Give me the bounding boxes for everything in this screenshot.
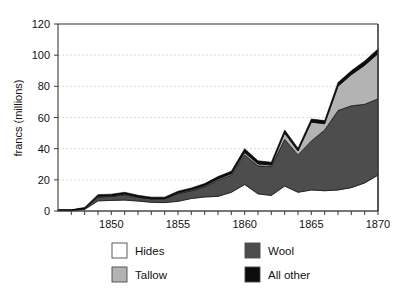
y-tick-label-60: 60 (38, 112, 50, 124)
legend-swatch-tallow (112, 267, 127, 282)
y-axis-title: francs (millions) (12, 79, 24, 156)
x-tick-label-1870: 1870 (366, 218, 390, 230)
legend-swatch-hides (112, 243, 127, 258)
x-tick-label-1860: 1860 (232, 218, 256, 230)
legend-label-tallow: Tallow (135, 269, 168, 281)
chart-svg: 020406080100120 18501855186018651870 fra… (0, 0, 403, 295)
y-tick-label-80: 80 (38, 80, 50, 92)
y-tick-label-20: 20 (38, 174, 50, 186)
y-tick-label-40: 40 (38, 143, 50, 155)
x-tick-label-1865: 1865 (299, 218, 323, 230)
stacked-area-chart: 020406080100120 18501855186018651870 fra… (0, 0, 403, 295)
legend-label-wool: Wool (268, 245, 294, 257)
legend-label-all-other: All other (268, 269, 310, 281)
y-tick-label-120: 120 (32, 18, 50, 30)
legend-swatch-wool (245, 243, 260, 258)
y-tick-label-0: 0 (44, 205, 50, 217)
x-tick-label-1850: 1850 (99, 218, 123, 230)
y-tick-label-100: 100 (32, 49, 50, 61)
legend-swatch-all-other (245, 267, 260, 282)
legend-label-hides: Hides (135, 245, 165, 257)
x-tick-label-1855: 1855 (166, 218, 190, 230)
